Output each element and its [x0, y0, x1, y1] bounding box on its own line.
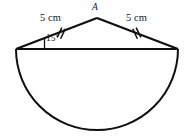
geometry-figure: 5 cm 5 cm 15° A	[0, 0, 192, 137]
left-side-length-label: 5 cm	[40, 13, 61, 24]
figure-canvas	[0, 0, 192, 137]
apex-vertex-label: A	[92, 3, 98, 13]
right-side-length-label: 5 cm	[126, 13, 147, 24]
base-angle-label: 15°	[46, 34, 59, 44]
semicircle-arc	[16, 49, 178, 130]
